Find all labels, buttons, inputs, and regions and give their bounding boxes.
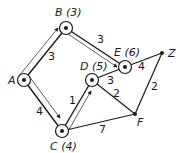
weight-F-Z: 2	[151, 80, 158, 93]
label-B: B (3)	[55, 6, 82, 19]
label-E: E (6)	[114, 46, 140, 59]
weight-C-D: 1	[69, 94, 76, 107]
node-E	[119, 61, 132, 74]
label-Z: Z	[167, 47, 176, 60]
node-A	[18, 74, 31, 87]
node-D	[86, 74, 99, 87]
node-B	[60, 22, 73, 35]
node-Z	[160, 51, 164, 55]
edge-A-C	[24, 76, 62, 131]
label-F: F	[137, 116, 144, 129]
weight-C-F: 7	[99, 123, 106, 136]
weight-D-E: 3	[107, 74, 114, 87]
label-A: A	[7, 74, 16, 87]
weight-A-B: 3	[48, 50, 55, 63]
edge-A-B	[19, 28, 66, 80]
weight-A-C: 4	[36, 105, 43, 118]
weight-B-E: 3	[97, 33, 104, 46]
network-diagram: A B (3) C (4) D (5) E (6) Z F 3 4 3 1 3 …	[0, 0, 178, 153]
label-C: C (4)	[50, 140, 77, 153]
weight-E-Z: 4	[138, 60, 145, 73]
label-D: D (5)	[80, 60, 108, 73]
node-C	[56, 125, 69, 138]
weight-D-F: 2	[113, 87, 120, 100]
